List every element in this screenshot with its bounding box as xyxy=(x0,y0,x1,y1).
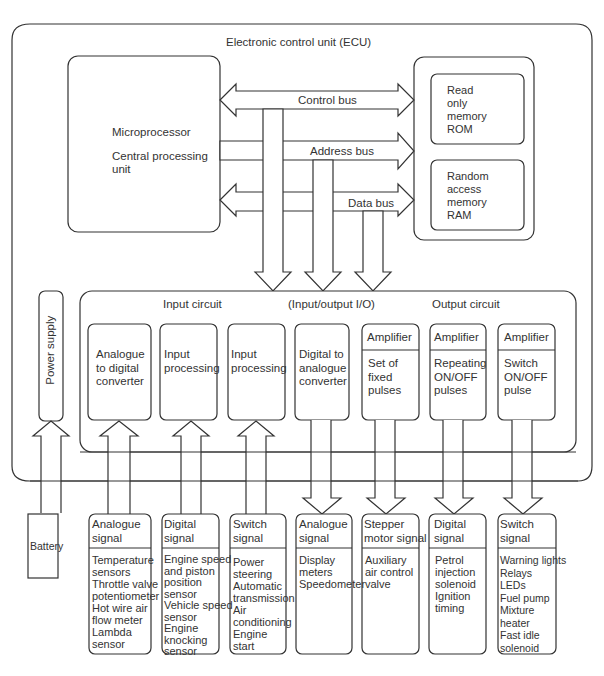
signal-6-items: PetrolinjectionsolenoidIgnitiontiming xyxy=(435,554,476,614)
control-bus-label: Control bus xyxy=(298,94,357,108)
output-circuit-label: Output circuit xyxy=(432,298,500,312)
battery-to-power-arrow xyxy=(33,421,69,513)
power-supply-label: Power supply xyxy=(23,350,79,364)
signal-4-header: Analoguesignal xyxy=(299,518,348,545)
io-block-1-text: Analogueto digitalconverter xyxy=(96,348,145,389)
io-block-3-text: Inputprocessing xyxy=(231,348,287,375)
io-label: (Input/output I/O) xyxy=(288,298,375,312)
ecu-title: Electronic control unit (ECU) xyxy=(226,36,371,50)
cpu-label: Microprocessor xyxy=(112,126,191,140)
signal-2-items: Engine speedand pistonpositionsensorVehi… xyxy=(164,554,233,658)
cpu-box xyxy=(68,56,220,232)
signal-2-header: Digitalsignal xyxy=(164,518,196,545)
io-block-7-text: SwitchON/OFFpulse xyxy=(504,357,547,398)
io-block-2-text: Inputprocessing xyxy=(164,348,220,375)
signal-3-items: PowersteeringAutomatictransmissionAircon… xyxy=(233,556,295,652)
input-circuit-label: Input circuit xyxy=(163,298,222,312)
signal-4-items: DisplaymetersSpeedometer xyxy=(299,554,365,590)
io-block-7-header: Amplifier xyxy=(504,331,549,345)
io-block-6-header: Amplifier xyxy=(434,331,479,345)
cpu-label-2: Central processing xyxy=(112,150,208,164)
cpu-label-3: unit xyxy=(112,163,131,177)
signal-6-header: Digitalsignal xyxy=(434,518,466,545)
io-block-5-text: Set offixedpulses xyxy=(368,357,401,398)
io-block-4-text: Digital toanalogueconverter xyxy=(299,348,347,389)
ram-label: RandomaccessmemoryRAM xyxy=(447,170,489,222)
battery-label: Battery xyxy=(30,540,63,554)
rom-label: ReadonlymemoryROM xyxy=(447,84,487,136)
signal-5-header: Steppermotor signal xyxy=(364,518,427,545)
data-bus-label: Data bus xyxy=(348,197,394,211)
data-bus-down-arrow xyxy=(355,211,391,291)
analogue-input-arrow xyxy=(100,421,138,515)
io-block-5-header: Amplifier xyxy=(367,331,412,345)
signal-3-header: Switchsignal xyxy=(233,518,267,545)
address-bus-down-arrow xyxy=(305,160,341,291)
signal-5-items: Auxiliaryair controlvalve xyxy=(365,554,413,590)
io-block-6-text: RepeatingON/OFFpulses xyxy=(434,357,486,398)
digital-input-arrow xyxy=(173,421,209,515)
signal-7-header: Switchsignal xyxy=(500,518,534,545)
signal-1-header: Analoguesignal xyxy=(92,518,141,545)
address-bus-label: Address bus xyxy=(310,145,374,159)
switch-input-arrow xyxy=(238,421,274,515)
signal-7-items: Warning lightsRelaysLEDsFuel pumpMixture… xyxy=(500,554,566,654)
signal-1-items: TemperaturesensorsThrottle valvepotentio… xyxy=(92,554,159,650)
